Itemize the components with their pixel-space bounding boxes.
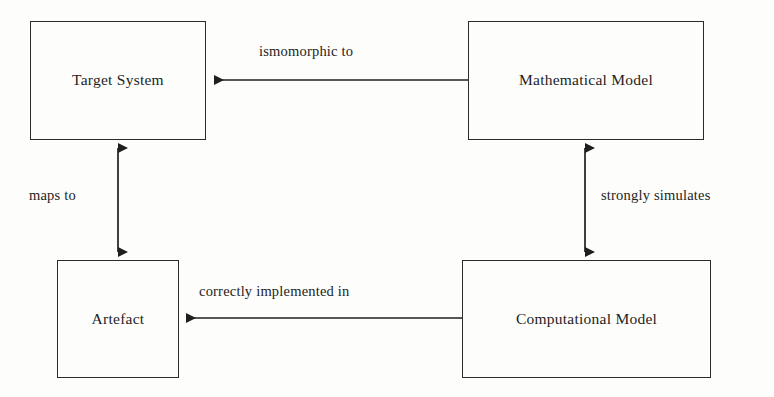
node-mathematical-model-label: Mathematical Model (519, 71, 653, 90)
edge-label-isomorphic-to: ismomorphic to (259, 44, 353, 60)
node-artefact-label: Artefact (92, 310, 145, 329)
node-computational-model[interactable]: Computational Model (462, 260, 711, 378)
edge-label-maps-to: maps to (29, 188, 76, 204)
node-computational-model-label: Computational Model (516, 310, 657, 329)
node-artefact[interactable]: Artefact (57, 260, 179, 378)
node-mathematical-model[interactable]: Mathematical Model (468, 21, 704, 140)
node-target-system[interactable]: Target System (30, 21, 206, 140)
edge-label-strongly-simulates: strongly simulates (601, 188, 711, 204)
edge-label-correctly-implemented-in: correctly implemented in (199, 284, 350, 300)
diagram-canvas: Target System Mathematical Model Artefac… (0, 0, 774, 397)
node-target-system-label: Target System (72, 71, 164, 90)
